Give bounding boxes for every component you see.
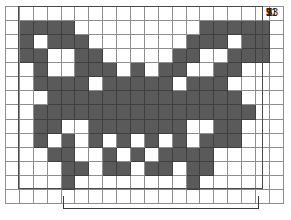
chart-cell xyxy=(144,49,158,63)
chart-cell xyxy=(47,77,61,91)
width-bracket-caption xyxy=(63,211,259,220)
chart-cell xyxy=(158,77,172,91)
chart-cell xyxy=(117,63,131,77)
chart-cell xyxy=(242,161,256,175)
chart-cell xyxy=(89,105,103,119)
chart-cell xyxy=(103,7,117,21)
chart-cell xyxy=(47,147,61,161)
width-bracket xyxy=(63,196,259,209)
chart-cell xyxy=(144,7,158,21)
chart-cell xyxy=(33,189,47,203)
chart-cell xyxy=(47,105,61,119)
chart-cell xyxy=(6,161,20,175)
chart-cell xyxy=(200,63,214,77)
chart-cell xyxy=(131,77,145,91)
chart-cell xyxy=(186,91,200,105)
chart-cell xyxy=(228,35,242,49)
chart-cell xyxy=(33,77,47,91)
chart-cell xyxy=(89,161,103,175)
chart-cell xyxy=(117,119,131,133)
chart-cell xyxy=(47,63,61,77)
chart-cell xyxy=(131,91,145,105)
chart-cell xyxy=(117,175,131,189)
chart-cell xyxy=(158,175,172,189)
chart-cell xyxy=(214,119,228,133)
chart-cell xyxy=(158,7,172,21)
chart-cell xyxy=(103,119,117,133)
chart-cell xyxy=(6,77,20,91)
chart-cell xyxy=(6,35,20,49)
chart-cell xyxy=(186,49,200,63)
chart-cell xyxy=(61,175,75,189)
chart-cell xyxy=(33,91,47,105)
chart-cell xyxy=(131,105,145,119)
chart-cell xyxy=(89,147,103,161)
chart-cell xyxy=(89,77,103,91)
chart-cell xyxy=(158,35,172,49)
chart-cell xyxy=(47,175,61,189)
chart-cell xyxy=(117,21,131,35)
chart-cell xyxy=(103,21,117,35)
chart-cell xyxy=(19,77,33,91)
chart-cell xyxy=(6,147,20,161)
chart-cell xyxy=(200,35,214,49)
chart-cell xyxy=(33,147,47,161)
chart-grid-row xyxy=(6,105,284,119)
chart-cell xyxy=(144,161,158,175)
chart-cell xyxy=(200,119,214,133)
chart-cell xyxy=(228,77,242,91)
chart-cell xyxy=(47,21,61,35)
chart-cell xyxy=(228,91,242,105)
chart-cell xyxy=(144,147,158,161)
chart-cell xyxy=(103,133,117,147)
chart-cell xyxy=(47,161,61,175)
chart-cell xyxy=(172,77,186,91)
chart-cell xyxy=(186,21,200,35)
chart-cell xyxy=(89,63,103,77)
chart-cell xyxy=(19,35,33,49)
chart-cell xyxy=(103,49,117,63)
chart-cell xyxy=(117,35,131,49)
chart-cell xyxy=(228,63,242,77)
chart-cell xyxy=(33,63,47,77)
chart-grid-row xyxy=(6,7,284,21)
chart-cell xyxy=(103,35,117,49)
chart-cell xyxy=(131,63,145,77)
chart-cell xyxy=(214,35,228,49)
chart-cell xyxy=(158,49,172,63)
chart-cell xyxy=(103,147,117,161)
chart-cell xyxy=(172,21,186,35)
chart-cell xyxy=(47,119,61,133)
chart-cell xyxy=(75,49,89,63)
chart-cell xyxy=(19,91,33,105)
chart-cell xyxy=(117,147,131,161)
chart-cell xyxy=(186,133,200,147)
chart-cell xyxy=(228,119,242,133)
chart-cell xyxy=(33,7,47,21)
chart-cell xyxy=(144,119,158,133)
chart-cell xyxy=(131,175,145,189)
chart-cell xyxy=(89,91,103,105)
chart-cell xyxy=(61,91,75,105)
chart-cell xyxy=(131,7,145,21)
chart-cell xyxy=(47,35,61,49)
chart-cell xyxy=(75,21,89,35)
chart-cell xyxy=(75,133,89,147)
chart-cell xyxy=(228,21,242,35)
chart-cell xyxy=(214,91,228,105)
chart-cell xyxy=(242,175,256,189)
chart-cell xyxy=(61,35,75,49)
chart-cell xyxy=(19,49,33,63)
row-label-1: 1 xyxy=(266,6,288,18)
chart-cell xyxy=(158,105,172,119)
chart-cell xyxy=(144,35,158,49)
chart-cell xyxy=(172,63,186,77)
chart-cell xyxy=(242,63,256,77)
chart-cell xyxy=(89,21,103,35)
chart-grid-row xyxy=(6,21,284,35)
chart-cell xyxy=(89,119,103,133)
chart-cell xyxy=(61,119,75,133)
chart-cell xyxy=(19,147,33,161)
chart-cell xyxy=(131,49,145,63)
chart-cell xyxy=(131,35,145,49)
